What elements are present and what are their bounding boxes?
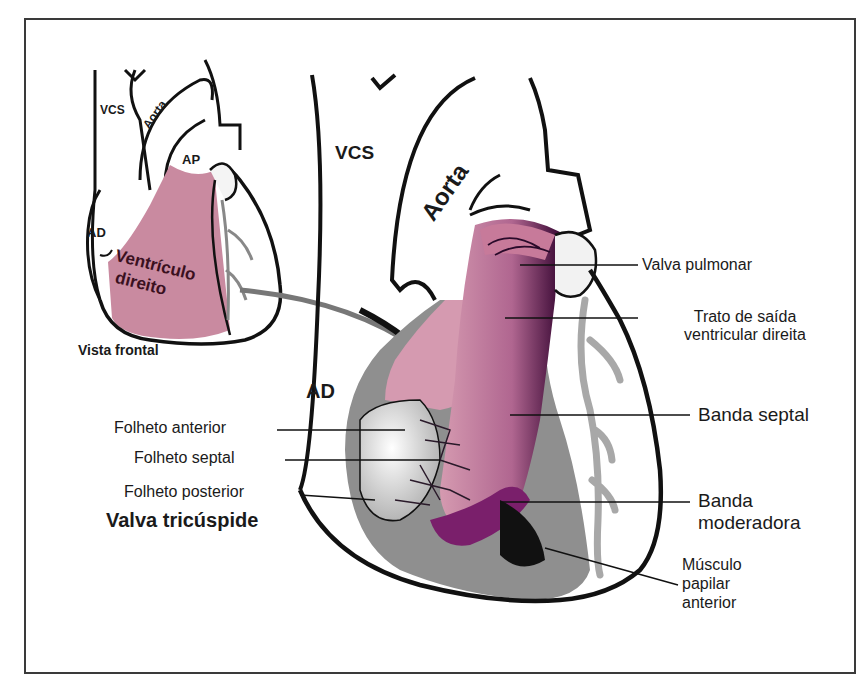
small-ad-label: AD: [87, 226, 106, 241]
small-ap-label: AP: [182, 153, 200, 168]
callout-musculo-papilar-line1: Músculo: [682, 555, 742, 574]
small-heart-caption: Vista frontal: [78, 342, 159, 358]
callout-trato-saida-line1: Trato de saída: [650, 308, 840, 326]
callout-trato-saida: Trato de saída ventricular direita: [650, 308, 840, 345]
callout-musculo-papilar: Músculo papilar anterior: [682, 555, 742, 613]
callout-banda-septal: Banda septal: [698, 404, 809, 426]
valve-title: Valva tricúspide: [106, 509, 258, 532]
callout-banda-moderadora-line2: moderadora: [698, 512, 800, 534]
callout-folheto-posterior: Folheto posterior: [124, 483, 244, 501]
callout-folheto-septal: Folheto septal: [134, 449, 235, 467]
callout-folheto-anterior: Folheto anterior: [114, 419, 226, 437]
callout-banda-moderadora-line1: Banda: [698, 490, 800, 512]
callout-musculo-papilar-line3: anterior: [682, 593, 742, 612]
callout-valva-pulmonar: Valva pulmonar: [642, 256, 752, 274]
small-vcs-label: VCS: [100, 104, 125, 118]
large-vcs-label: VCS: [335, 142, 374, 164]
callout-musculo-papilar-line2: papilar: [682, 574, 742, 593]
large-ad-label: AD: [306, 380, 335, 403]
callout-trato-saida-line2: ventricular direita: [650, 326, 840, 344]
callout-banda-moderadora: Banda moderadora: [698, 490, 800, 534]
